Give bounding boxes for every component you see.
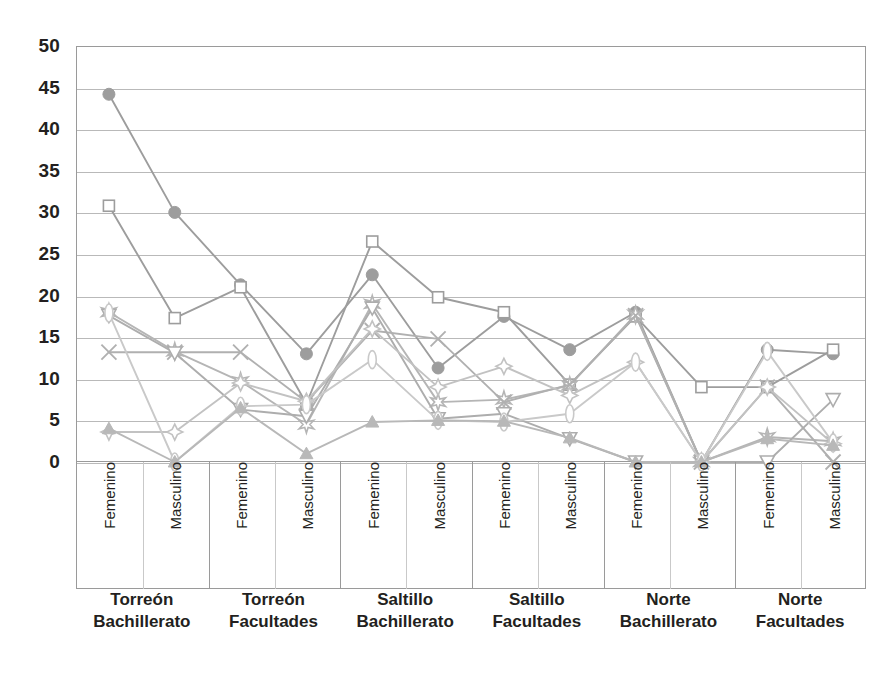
y-axis-tick-10: 10 — [38, 368, 60, 390]
x-axis-group-label: SaltilloBachillerato — [339, 589, 471, 651]
data-point — [632, 353, 640, 371]
x-axis-sub-label-cell: Femenino — [735, 462, 801, 589]
chart-root: 50454035302520151050 FemeninoMasculinoFe… — [0, 0, 894, 685]
group-label-level: Bachillerato — [620, 611, 717, 633]
series-layer — [76, 46, 866, 462]
x-axis-group-label: TorreónBachillerato — [76, 589, 208, 651]
series-serie-triangulo-abajo — [102, 302, 840, 469]
series-serie-equis — [101, 308, 840, 469]
data-point — [496, 358, 512, 374]
group-label-level: Facultades — [229, 611, 318, 633]
group-divider — [340, 462, 341, 589]
x-axis-group-label: NorteFacultades — [734, 589, 866, 651]
x-axis-sub-label: Femenino — [101, 462, 118, 537]
data-point — [763, 342, 771, 360]
group-label-city: Saltillo — [509, 589, 565, 611]
series-line-serie-rombo — [109, 329, 833, 462]
data-point — [300, 348, 312, 360]
y-axis-tick-5: 5 — [49, 409, 60, 431]
y-axis-tick-45: 45 — [38, 77, 60, 99]
series-serie-circulo — [103, 88, 839, 468]
group-label-city: Norte — [778, 589, 822, 611]
group-label-city: Torreón — [242, 589, 305, 611]
x-axis-sub-label: Femenino — [365, 462, 382, 537]
group-label-level: Bachillerato — [357, 611, 454, 633]
x-axis-sub-label: Masculino — [299, 462, 316, 538]
y-axis-tick-35: 35 — [38, 160, 60, 182]
sub-divider — [801, 462, 802, 589]
x-axis-sub-label-cell: Masculino — [275, 462, 341, 589]
x-axis-sub-label: Masculino — [431, 462, 448, 538]
data-point — [302, 396, 310, 414]
y-axis-tick-15: 15 — [38, 326, 60, 348]
y-axis-tick-25: 25 — [38, 243, 60, 265]
data-point — [432, 362, 444, 374]
group-label-city: Norte — [646, 589, 690, 611]
x-axis-sub-label-cell: Femenino — [604, 462, 670, 589]
data-point — [300, 447, 313, 459]
x-axis-sub-label: Femenino — [496, 462, 513, 537]
series-line-serie-triangulo-abajo — [109, 308, 833, 462]
data-point — [366, 269, 378, 281]
data-point — [103, 200, 114, 211]
x-axis-sub-label: Masculino — [694, 462, 711, 538]
x-axis-group-label: SaltilloFacultades — [471, 589, 603, 651]
x-axis-sub-label-cell: Masculino — [801, 462, 867, 589]
data-point — [102, 422, 115, 434]
y-axis-tick-30: 30 — [38, 201, 60, 223]
data-point — [368, 351, 376, 369]
data-point — [696, 382, 707, 393]
group-label-level: Bachillerato — [93, 611, 190, 633]
x-axis-sub-label-cell: Masculino — [143, 462, 209, 589]
series-serie-estrella — [102, 295, 841, 470]
group-label-city: Torreón — [110, 589, 173, 611]
group-label-level: Facultades — [492, 611, 581, 633]
series-line-serie-circulo — [109, 94, 833, 462]
sub-divider — [143, 462, 144, 589]
group-divider — [472, 462, 473, 589]
group-label-city: Saltillo — [377, 589, 433, 611]
data-point — [498, 307, 509, 318]
y-axis: 50454035302520151050 — [0, 0, 72, 685]
x-axis-sub-label-band: FemeninoMasculinoFemeninoMasculinoFemeni… — [76, 462, 866, 589]
group-label-level: Facultades — [756, 611, 845, 633]
group-divider — [209, 462, 210, 589]
x-axis-sub-label-cell: Masculino — [670, 462, 736, 589]
data-point — [433, 292, 444, 303]
series-serie-triangulo-lleno — [102, 401, 839, 467]
series-line-serie-estrella — [109, 304, 833, 462]
data-point — [566, 405, 574, 423]
x-axis-sub-label: Femenino — [628, 462, 645, 537]
x-axis-sub-label-cell: Masculino — [406, 462, 472, 589]
x-axis-group-label: TorreónFacultades — [208, 589, 340, 651]
x-axis-sub-label-cell: Femenino — [340, 462, 406, 589]
data-point — [167, 424, 183, 440]
sub-divider — [406, 462, 407, 589]
x-axis-sub-label: Femenino — [233, 462, 250, 537]
y-axis-tick-40: 40 — [38, 118, 60, 140]
series-serie-cuadrado — [103, 200, 838, 409]
x-axis-sub-label-cell: Femenino — [209, 462, 275, 589]
sub-divider — [275, 462, 276, 589]
x-axis-sub-label: Masculino — [562, 462, 579, 538]
data-point — [564, 344, 576, 356]
data-point — [105, 304, 113, 322]
data-point — [235, 282, 246, 293]
sub-divider — [538, 462, 539, 589]
x-axis-sub-label: Masculino — [167, 462, 184, 538]
data-point — [828, 344, 839, 355]
y-axis-tick-50: 50 — [38, 35, 60, 57]
x-axis-sub-label: Masculino — [826, 462, 843, 538]
data-point — [169, 313, 180, 324]
group-divider — [604, 462, 605, 589]
y-axis-tick-20: 20 — [38, 285, 60, 307]
x-axis-sub-label-cell: Masculino — [538, 462, 604, 589]
series-line-serie-cuadrado — [109, 206, 833, 404]
x-axis-sub-label-cell: Femenino — [472, 462, 538, 589]
data-point — [103, 88, 115, 100]
x-axis-group-label-band: TorreónBachilleratoTorreónFacultadesSalt… — [76, 589, 866, 651]
x-axis-sub-label: Femenino — [760, 462, 777, 537]
group-divider — [735, 462, 736, 589]
data-point — [169, 206, 181, 218]
x-axis-group-label: NorteBachillerato — [603, 589, 735, 651]
